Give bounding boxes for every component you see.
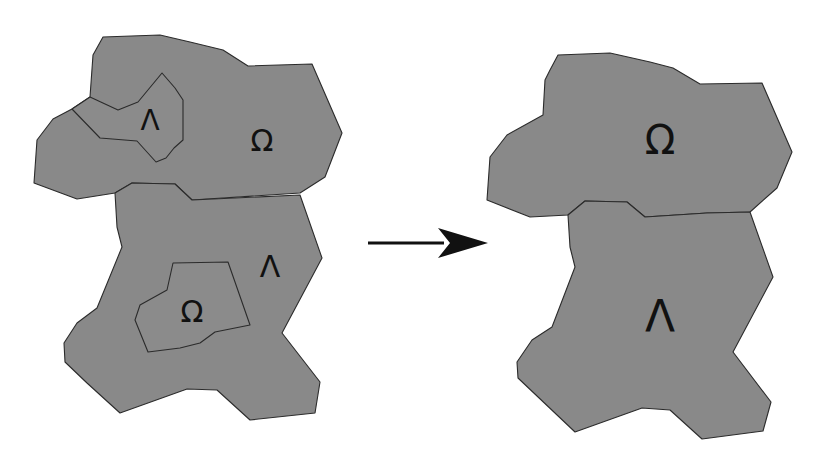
- lambda-label: Λ: [645, 291, 675, 342]
- omega-label: Ω: [645, 117, 676, 163]
- lambda-label: Λ: [140, 104, 159, 137]
- omega-label: Ω: [251, 123, 274, 158]
- after-top-region: [487, 53, 792, 217]
- omega-label: Ω: [181, 294, 204, 329]
- right-arrow-icon: [368, 228, 488, 258]
- after-panel: Ω Λ: [487, 53, 792, 439]
- region-merge-diagram: Ω Λ Λ Ω Ω Λ: [0, 0, 828, 455]
- lambda-label: Λ: [260, 249, 281, 284]
- before-panel: Ω Λ Λ Ω: [34, 35, 342, 420]
